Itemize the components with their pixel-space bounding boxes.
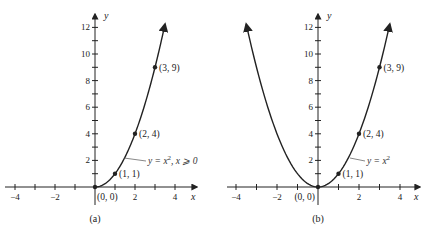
x-axis-label: x — [190, 191, 196, 202]
panel-caption: (a) — [89, 213, 100, 225]
y-tick-label: 6 — [309, 102, 314, 112]
equation-label: y = x2, x ⩾ 0 — [147, 154, 198, 166]
data-point — [113, 172, 117, 176]
data-point — [133, 132, 137, 136]
y-tick-label: 10 — [81, 49, 91, 59]
x-tick-label: 2 — [357, 192, 362, 202]
y-tick-label: 12 — [304, 22, 313, 32]
data-point — [336, 172, 340, 176]
x-tick-label: −4 — [10, 192, 20, 202]
data-point — [377, 65, 381, 69]
x-tick-label: 4 — [173, 192, 178, 202]
x-tick-label: −2 — [50, 192, 60, 202]
x-axis-label: x — [413, 191, 419, 202]
y-tick-label: 10 — [304, 49, 314, 59]
data-point — [357, 132, 361, 136]
equation-label: y = x2 — [366, 154, 391, 166]
data-point — [316, 185, 320, 189]
x-tick-label: 2 — [133, 192, 138, 202]
panel-caption: (b) — [312, 213, 324, 225]
y-axis-label: y — [103, 10, 109, 21]
equation-leader-line — [350, 158, 365, 161]
parabola-figure: −4−22424681012xy(0, 0)(1, 1)(2, 4)(3, 9)… — [0, 0, 424, 233]
point-label: (1, 1) — [343, 169, 364, 180]
data-point — [153, 65, 157, 69]
equation-leader-line — [124, 158, 146, 161]
y-tick-label: 6 — [86, 102, 91, 112]
point-label: (3, 9) — [384, 63, 405, 74]
graph-panel-a: −4−22424681012xy(0, 0)(1, 1)(2, 4)(3, 9)… — [5, 10, 198, 225]
x-tick-label: −4 — [231, 192, 241, 202]
point-label: (0, 0) — [97, 192, 118, 203]
y-tick-label: 2 — [86, 155, 91, 165]
y-tick-label: 2 — [309, 155, 314, 165]
point-label: (2, 4) — [139, 129, 160, 140]
y-tick-label: 4 — [309, 129, 314, 139]
data-point — [93, 185, 97, 189]
y-tick-label: 8 — [309, 76, 314, 86]
point-label: (3, 9) — [159, 63, 180, 74]
y-tick-label: 4 — [86, 129, 91, 139]
x-tick-label: −2 — [272, 192, 282, 202]
point-label: (0, 0) — [294, 192, 315, 203]
x-tick-label: 4 — [398, 192, 403, 202]
point-label: (1, 1) — [119, 169, 140, 180]
y-tick-label: 12 — [81, 22, 90, 32]
y-axis-label: y — [326, 10, 332, 21]
y-tick-label: 8 — [86, 76, 91, 86]
graph-panel-b: −4−22424681012xy(0, 0)(1, 1)(2, 4)(3, 9)… — [227, 10, 420, 225]
point-label: (2, 4) — [363, 129, 384, 140]
